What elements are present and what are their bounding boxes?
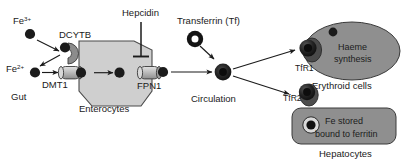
ferritin-store-line1: Fe stored xyxy=(325,116,363,126)
erythroid-cells-label: Erythroid cells xyxy=(312,80,372,91)
iron-metabolism-diagram: Fe3+ DCYTB Fe2+ DMT1 Hepcidin xyxy=(0,0,414,164)
arrow-transferrin-to-complex xyxy=(200,46,214,59)
dmt1-transported-iron xyxy=(76,68,86,78)
exported-iron-particle xyxy=(158,67,168,77)
tfr2-label: TfR2 xyxy=(283,93,302,103)
diagram-canvas: Fe3+ DCYTB Fe2+ DMT1 Hepcidin xyxy=(0,0,414,164)
fe3-label: Fe3+ xyxy=(13,15,32,27)
arrow-fe3-to-dcytb xyxy=(37,40,59,51)
haeme-synthesis-line2: synthesis xyxy=(334,54,372,64)
fe2-label: Fe2+ xyxy=(6,63,25,75)
cytosolic-iron-particle xyxy=(114,68,124,78)
dcytb-label: DCYTB xyxy=(59,29,91,40)
enterocytes-label: Enterocytes xyxy=(79,103,129,114)
fpn1-label: FPN1 xyxy=(137,80,161,91)
arrow-complex-to-tfr1 xyxy=(233,50,295,69)
complex-iron-core xyxy=(219,68,227,76)
hepcidin-label: Hepcidin xyxy=(122,7,159,18)
dcytb-bound-iron xyxy=(60,42,70,52)
circulation-label: Circulation xyxy=(191,93,236,104)
ferrous-iron-particle xyxy=(30,67,40,77)
arrow-complex-to-tfr2 xyxy=(233,76,289,94)
ferritin-store-line2: bound to ferritin xyxy=(315,129,378,139)
haeme-synthesis-line1: Haeme xyxy=(338,42,367,52)
transferrin-ring xyxy=(187,31,203,47)
arrow-dcytb-to-fe2 xyxy=(40,55,60,66)
hepatocytes-label: Hepatocytes xyxy=(319,148,372,159)
dmt1-label: DMT1 xyxy=(42,79,68,90)
tfr1-receptor xyxy=(299,38,321,62)
erythroid-internalised-iron xyxy=(329,28,338,37)
tfr1-label: TfR1 xyxy=(295,63,314,73)
ferric-iron-particle xyxy=(25,29,35,39)
transferrin-label: Transferrin (Tf) xyxy=(177,15,240,26)
tfr2-receptor xyxy=(299,84,318,106)
gut-label: Gut xyxy=(11,91,27,102)
